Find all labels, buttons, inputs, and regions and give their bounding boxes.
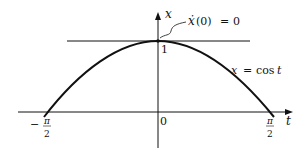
curve-label: x = cos t	[231, 64, 282, 77]
x-tick-left-sign: −	[30, 118, 39, 131]
svg-text:=: =	[220, 15, 229, 28]
svg-text:=: =	[243, 64, 252, 77]
x-tick-left-num: π	[43, 116, 51, 126]
x-axis-label: t	[286, 114, 291, 128]
svg-text:0: 0	[233, 15, 240, 28]
svg-text:ẋ: ẋ	[188, 14, 195, 28]
annotation-leader	[160, 22, 186, 38]
svg-text:t: t	[277, 64, 282, 77]
origin-label: 0	[160, 115, 167, 128]
y-tick-1: 1	[161, 43, 168, 56]
svg-text:x: x	[231, 64, 238, 77]
x-tick-right-num: π	[266, 116, 274, 126]
derivative-annotation: ẋ (0) = 0	[188, 14, 240, 28]
x-tick-right-den: 2	[267, 129, 273, 139]
peak-point	[156, 39, 160, 43]
svg-text:cos: cos	[256, 64, 275, 77]
cosine-diagram: x t 0 1 − π 2 π 2 x = cos t ẋ (0) = 0	[0, 0, 307, 154]
x-tick-left-den: 2	[44, 129, 50, 139]
x-axis-arrow-icon	[155, 12, 161, 20]
y-axis-label: x	[165, 7, 172, 21]
cosine-curve	[44, 41, 274, 117]
svg-text:(0): (0)	[196, 15, 212, 28]
